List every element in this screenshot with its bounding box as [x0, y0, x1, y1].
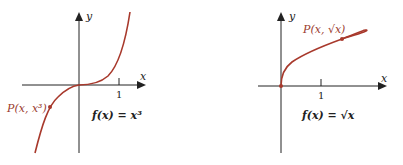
point-label: P(x, x³): [6, 102, 47, 115]
tick-label: 1: [318, 90, 324, 101]
right-graph: 1 x y P(x, √x) f(x) = √x: [258, 10, 388, 153]
point-marker: [340, 37, 344, 41]
function-label: f(x) = x³: [91, 109, 142, 122]
y-axis-label: y: [288, 10, 296, 23]
function-label: f(x) = √x: [301, 109, 355, 122]
point-label: P(x, √x): [302, 23, 345, 36]
left-graph: 1 x y P(x, x³) f(x) = x³: [6, 10, 147, 153]
sqrt-curve: [281, 30, 367, 86]
y-axis-arrow-icon: [277, 12, 285, 21]
origin-marker: [279, 84, 283, 88]
y-axis-label: y: [85, 10, 93, 23]
tick-label: 1: [116, 89, 122, 100]
point-marker: [48, 105, 52, 109]
x-axis-label: x: [140, 70, 147, 83]
figure: 1 x y P(x, x³) f(x) = x³ 1 x y P(x, √x) …: [0, 0, 403, 165]
cubic-curve: [35, 12, 130, 153]
y-axis-arrow-icon: [75, 12, 83, 21]
x-axis-label: x: [381, 72, 388, 85]
